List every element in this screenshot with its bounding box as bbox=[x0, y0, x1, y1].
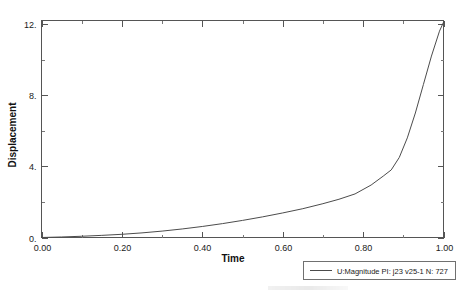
x-tick-label: 0.40 bbox=[194, 243, 212, 253]
x-axis-tick-labels: 0.000.200.400.600.801.00 bbox=[34, 243, 454, 253]
series-line-u-magnitude-pi-j23-v25-1-n-727 bbox=[42, 22, 444, 237]
y-tick-label: 8. bbox=[29, 91, 37, 101]
legend-entry-label: U:Magnitude PI: j23 v25-1 N: 727 bbox=[337, 267, 448, 276]
y-axis-title: Displacement bbox=[7, 102, 18, 168]
chart-legend: U:Magnitude PI: j23 v25-1 N: 727 bbox=[304, 262, 456, 280]
chart-svg: 0.000.200.400.600.801.00 0.4.8.12. Time … bbox=[0, 0, 466, 297]
y-axis-major-ticks bbox=[42, 25, 444, 239]
scan-artifact bbox=[268, 286, 348, 290]
y-tick-label: 0. bbox=[29, 234, 37, 244]
plot-area-frame bbox=[42, 21, 444, 238]
x-tick-label: 0.20 bbox=[114, 243, 132, 253]
x-tick-label: 1.00 bbox=[436, 243, 454, 253]
y-tick-label: 12. bbox=[24, 20, 37, 30]
x-tick-label: 0.00 bbox=[34, 243, 52, 253]
y-tick-label: 4. bbox=[29, 162, 37, 172]
x-axis-major-ticks bbox=[43, 21, 445, 238]
x-tick-label: 0.60 bbox=[275, 243, 293, 253]
y-axis-tick-labels: 0.4.8.12. bbox=[24, 20, 37, 244]
x-axis-title: Time bbox=[221, 253, 245, 264]
y-axis-minor-ticks bbox=[42, 61, 444, 203]
x-axis-minor-ticks bbox=[83, 21, 404, 238]
x-tick-label: 0.80 bbox=[355, 243, 373, 253]
displacement-vs-time-chart: 0.000.200.400.600.801.00 0.4.8.12. Time … bbox=[0, 0, 466, 297]
series-lines bbox=[42, 22, 444, 237]
